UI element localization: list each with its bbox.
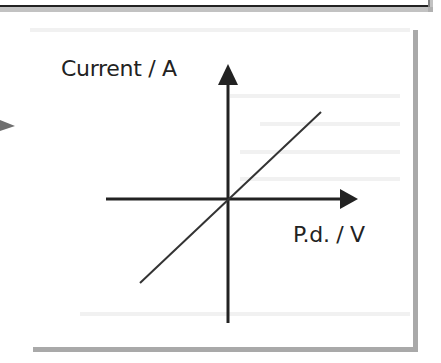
y-axis-label: Current / A xyxy=(61,56,177,81)
x-axis-label: P.d. / V xyxy=(293,222,365,247)
x-axis-arrowhead-icon xyxy=(340,189,358,209)
y-axis-arrowhead-icon xyxy=(218,64,238,85)
iv-graph xyxy=(0,0,441,363)
